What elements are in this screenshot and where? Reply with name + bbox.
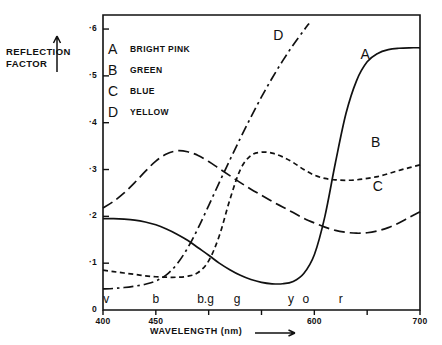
y-tick-label: ·2 bbox=[79, 210, 97, 220]
legend-item-a: ABRIGHT PINK bbox=[108, 40, 190, 57]
legend-label: BLUE bbox=[130, 86, 155, 96]
band-letter-v: v bbox=[96, 292, 116, 306]
y-tick-label: ·3 bbox=[79, 164, 97, 174]
y-tick-label: ·5 bbox=[79, 70, 97, 80]
legend-item-b: BGREEN bbox=[108, 61, 162, 78]
legend-key: C bbox=[108, 83, 130, 99]
band-letter-b: b bbox=[146, 292, 166, 306]
curve-label-d: D bbox=[268, 27, 288, 43]
curve-label-c: C bbox=[368, 178, 388, 194]
y-tick-label: 0 bbox=[79, 304, 97, 314]
y-axis-arrow-icon bbox=[54, 36, 61, 72]
band-letter-r: r bbox=[331, 292, 351, 306]
legend-label: GREEN bbox=[130, 65, 162, 75]
reflection-factor-chart: REFLECTION FACTOR WAVELENGTH (nm) ABRIGH… bbox=[0, 0, 442, 345]
x-tick-label: 600 bbox=[297, 316, 331, 326]
curve-b bbox=[103, 152, 420, 277]
legend-item-c: CBLUE bbox=[108, 82, 155, 99]
plot-canvas bbox=[0, 0, 442, 345]
legend-key: D bbox=[108, 104, 130, 120]
band-letter-g: g bbox=[227, 292, 247, 306]
y-tick-label: ·4 bbox=[79, 117, 97, 127]
legend-label: BRIGHT PINK bbox=[130, 44, 190, 54]
curve-label-a: A bbox=[355, 46, 375, 62]
band-letter-bg: b.g bbox=[195, 292, 215, 306]
x-tick-label: 400 bbox=[86, 316, 120, 326]
x-tick-label: 700 bbox=[403, 316, 437, 326]
legend-item-d: DYELLOW bbox=[108, 103, 169, 120]
x-tick-label: 450 bbox=[139, 316, 173, 326]
x-axis-arrow-icon bbox=[255, 330, 295, 336]
legend-label: YELLOW bbox=[130, 107, 169, 117]
curve-label-b: B bbox=[366, 134, 386, 150]
y-tick-label: ·6 bbox=[79, 23, 97, 33]
legend-key: B bbox=[108, 62, 130, 78]
legend-key: A bbox=[108, 41, 130, 57]
band-letter-o: o bbox=[296, 292, 316, 306]
y-tick-label: ·1 bbox=[79, 257, 97, 267]
